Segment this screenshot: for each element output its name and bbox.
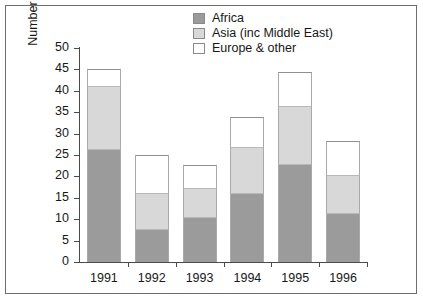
x-tick-label-1995: 1995 [272,271,318,285]
y-tick: 45 [74,69,80,70]
y-tick: 0 [74,262,80,263]
bar-segment-africa-1991[interactable] [87,149,121,262]
bar-segment-asia-1994[interactable] [230,147,264,192]
bar-segment-europe-1993[interactable] [183,165,217,188]
bar-segment-asia-1995[interactable] [278,106,312,164]
x-tick [319,262,320,267]
x-tick [176,262,177,267]
y-tick: 35 [74,112,80,113]
bar-1996[interactable] [326,141,360,262]
bar-segment-africa-1995[interactable] [278,164,312,262]
x-tick [271,262,272,267]
legend-label-asia: Asia (inc Middle East) [212,27,333,40]
bar-segment-asia-1993[interactable] [183,188,217,217]
bar-segment-europe-1991[interactable] [87,69,121,86]
y-tick: 40 [74,91,80,92]
y-tick-label: 25 [39,147,69,161]
bar-segment-asia-1991[interactable] [87,86,121,149]
x-tick [128,262,129,267]
y-tick-label: 40 [39,83,69,97]
y-tick-label: 50 [39,40,69,54]
bar-segment-asia-1996[interactable] [326,175,360,214]
x-tick-label-1994: 1994 [224,271,270,285]
y-tick-label: 35 [39,104,69,118]
x-tick-label-1992: 1992 [129,271,175,285]
y-axis-title: Number of principal applicants (× 103) [21,0,37,48]
y-tick-label: 15 [39,190,69,204]
y-tick-label: 20 [39,168,69,182]
y-tick-label: 45 [39,61,69,75]
legend-label-africa: Africa [212,12,244,25]
x-tick [224,262,225,267]
y-tick: 50 [74,48,80,49]
bar-1992[interactable] [135,155,169,262]
y-tick: 30 [74,134,80,135]
bar-segment-europe-1996[interactable] [326,141,360,174]
bar-segment-africa-1992[interactable] [135,229,169,262]
y-tick: 20 [74,176,80,177]
x-tick-label-1991: 1991 [81,271,127,285]
y-tick: 25 [74,155,80,156]
bar-1991[interactable] [87,69,121,262]
bar-1995[interactable] [278,72,312,262]
y-tick: 5 [74,241,80,242]
y-tick-label: 30 [39,126,69,140]
y-tick: 10 [74,219,80,220]
bar-segment-africa-1993[interactable] [183,217,217,262]
x-tick [367,262,368,267]
bar-segment-europe-1992[interactable] [135,155,169,193]
bar-segment-europe-1994[interactable] [230,117,264,147]
x-tick-label-1993: 1993 [177,271,223,285]
bar-1994[interactable] [230,117,264,262]
legend-item-asia: Asia (inc Middle East) [193,26,363,40]
bar-segment-africa-1994[interactable] [230,193,264,262]
y-tick-label: 0 [39,254,69,268]
bar-segment-africa-1996[interactable] [326,213,360,262]
x-tick-label-1996: 1996 [320,271,366,285]
legend-swatch-africa [193,13,205,24]
bar-segment-asia-1992[interactable] [135,193,169,229]
y-axis-title-base: Number of principal applicants (× 10 [26,0,40,46]
legend-swatch-asia [193,28,205,39]
legend-item-africa: Africa [193,11,363,25]
y-tick: 15 [74,198,80,199]
y-tick-label: 10 [39,211,69,225]
bar-segment-europe-1995[interactable] [278,72,312,106]
plot-area: 05101520253035404550 1991199219931994199… [80,48,367,262]
chart-figure: Africa Asia (inc Middle East) Europe & o… [0,0,423,300]
bar-1993[interactable] [183,165,217,262]
y-tick-label: 5 [39,233,69,247]
